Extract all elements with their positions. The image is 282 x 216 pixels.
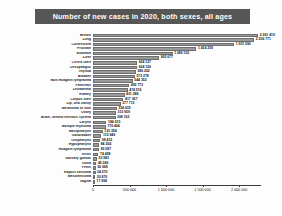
bar bbox=[93, 116, 116, 120]
bar bbox=[93, 130, 103, 134]
bar-value-label: 1 414 259 bbox=[198, 47, 213, 50]
bar-category-label: Corpus uteri bbox=[0, 98, 93, 102]
bar-value-label: 2 206 771 bbox=[256, 38, 271, 41]
bar-value-label: 431 288 bbox=[126, 93, 138, 96]
bar-category-label: Colorectum bbox=[0, 43, 93, 47]
bar bbox=[93, 102, 121, 106]
bar-category-label: Leukaemia bbox=[0, 88, 93, 92]
bar bbox=[93, 34, 258, 38]
bar-value-label: 1 089 103 bbox=[174, 52, 189, 55]
bar bbox=[93, 175, 95, 179]
bar-category-label: Stomach bbox=[0, 52, 93, 56]
bar bbox=[93, 121, 106, 125]
bar bbox=[93, 143, 99, 147]
bar bbox=[93, 139, 100, 143]
bar-category-label: Melanoma of skin bbox=[0, 107, 93, 111]
bar-category-label: Lip, oral cavity bbox=[0, 102, 93, 106]
bar bbox=[93, 111, 116, 115]
bar bbox=[93, 180, 95, 184]
bar-category-label: Mesothelioma bbox=[0, 175, 93, 179]
chart-page: Number of new cases in 2020, both sexes,… bbox=[0, 0, 282, 216]
x-axis: 0500 0001 000 0001 500 0002 000 000 bbox=[0, 185, 282, 207]
bar-category-label: Oropharynx bbox=[0, 139, 93, 143]
bar-category-label: Oesophagus bbox=[0, 66, 93, 70]
bar-category-label: Brain, central nervous system bbox=[0, 116, 93, 120]
x-axis-tick-label: 0 bbox=[92, 189, 94, 193]
bar-category-label: Vagina bbox=[0, 180, 93, 184]
bar-value-label: 1 931 590 bbox=[236, 43, 251, 46]
bar-category-label: Hodgkin lymphoma bbox=[0, 148, 93, 152]
bar-category-label: Non-Hodgkin lymphoma bbox=[0, 79, 93, 83]
bar-category-label: Bladder bbox=[0, 75, 93, 79]
bar-category-label: Salivary glands bbox=[0, 157, 93, 161]
bar bbox=[93, 171, 96, 175]
bar-category-label: Pancreas bbox=[0, 84, 93, 88]
bar-category-label: Cervix uteri bbox=[0, 61, 93, 65]
bar-category-label: Breast bbox=[0, 34, 93, 38]
bar bbox=[93, 79, 133, 83]
bar-category-label: Ovary bbox=[0, 111, 93, 115]
bar-track: 17 908 bbox=[93, 180, 282, 185]
bar-category-label: Multiple myeloma bbox=[0, 125, 93, 129]
bar bbox=[93, 84, 129, 88]
bar-chart-plot-area: Breast2 261 419Lung2 206 771Colorectum1 … bbox=[0, 33, 282, 183]
bar bbox=[93, 88, 128, 92]
bar-value-label: 83 087 bbox=[101, 148, 111, 151]
bar bbox=[93, 70, 136, 74]
x-axis-tick-label: 1 500 000 bbox=[194, 189, 210, 193]
bar-value-label: 34 270 bbox=[97, 171, 107, 174]
chart-title-banner: Number of new cases in 2020, both sexes,… bbox=[35, 9, 250, 24]
bar-value-label: 604 127 bbox=[139, 61, 151, 64]
bar-value-label: 495 773 bbox=[131, 84, 143, 87]
bar bbox=[93, 153, 98, 157]
bar-category-label: Larynx bbox=[0, 121, 93, 125]
bar-category-label: Kidney bbox=[0, 93, 93, 97]
bar bbox=[93, 75, 135, 79]
bar-category-label: Thyroid bbox=[0, 70, 93, 74]
x-axis-tick-label: 1 000 000 bbox=[158, 189, 174, 193]
bar-category-label: Kaposi sarcoma bbox=[0, 171, 93, 175]
bar-category-label: Prostate bbox=[0, 47, 93, 51]
bar-category-label: Hypopharynx bbox=[0, 143, 93, 147]
bar-category-label: Lung bbox=[0, 38, 93, 42]
bar bbox=[93, 134, 101, 138]
chart-title: Number of new cases in 2020, both sexes,… bbox=[53, 13, 233, 20]
bar bbox=[93, 148, 99, 152]
bar bbox=[93, 98, 123, 102]
bar-category-label: Penis bbox=[0, 166, 93, 170]
bar bbox=[93, 166, 96, 170]
bar-category-label: Testis bbox=[0, 153, 93, 157]
x-axis-line bbox=[93, 185, 261, 186]
x-axis-tick-label: 2 000 000 bbox=[231, 189, 247, 193]
bar bbox=[93, 61, 137, 65]
bar bbox=[93, 93, 125, 97]
bar-category-label: Vulva bbox=[0, 162, 93, 166]
bar-value-label: 905 677 bbox=[161, 56, 173, 59]
bar bbox=[93, 157, 97, 161]
bar-category-label: Gallbladder bbox=[0, 134, 93, 138]
bar bbox=[93, 162, 96, 166]
bar bbox=[93, 66, 137, 70]
bar-category-label: Nasopharynx bbox=[0, 130, 93, 134]
bar-row: Vagina17 908 bbox=[0, 180, 282, 185]
bar bbox=[93, 38, 254, 42]
x-axis-tick-label: 500 000 bbox=[123, 189, 136, 193]
bar-value-label: 308 102 bbox=[117, 116, 129, 119]
bar-value-label: 17 908 bbox=[97, 180, 107, 183]
bar-category-label: Liver bbox=[0, 56, 93, 60]
bar bbox=[93, 107, 117, 111]
